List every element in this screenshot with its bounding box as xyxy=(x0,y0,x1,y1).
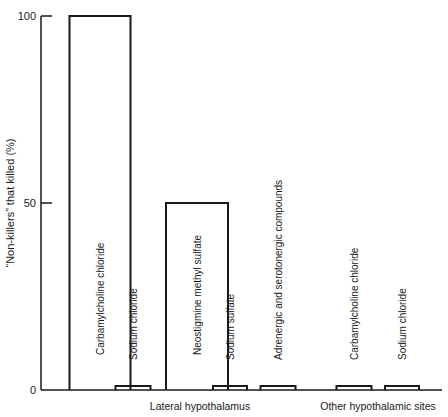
bar-label: Sodium sulfate xyxy=(225,293,236,360)
bar-label: Sodium chloride xyxy=(397,288,408,360)
bar-label: Carbamylcholine chloride xyxy=(95,242,106,355)
group-label: Lateral hypothalamus xyxy=(150,400,250,412)
bar-label: Neostigmine methyl sulfate xyxy=(192,235,203,355)
group-label: Other hypothalamic sites xyxy=(320,400,436,412)
bar-label: Adrenergic and serotonergic compounds xyxy=(273,180,284,360)
bar-label: Sodium chloride xyxy=(128,288,139,360)
y-axis-title: “Non-killers” that killed (%) xyxy=(4,139,16,268)
y-tick-label: 100 xyxy=(18,10,36,22)
bar-chart: 050100 Carbamylcholine chlorideSodium ch… xyxy=(0,0,448,417)
bar-label: Carbamylcholine chloride xyxy=(349,247,360,360)
y-tick-label: 0 xyxy=(30,384,36,396)
y-tick-label: 50 xyxy=(24,197,36,209)
